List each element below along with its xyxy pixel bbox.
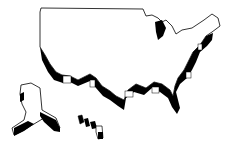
hawaii-big-island-extrusion [98, 132, 103, 139]
contiguous-us [40, 8, 220, 114]
us-map-illustration [0, 0, 235, 150]
alaska-peninsula-extrusion [14, 121, 34, 136]
map-svg [0, 0, 235, 150]
hawaii [78, 115, 103, 139]
hawaii-island-2 [84, 118, 90, 127]
hawaii-island-1 [78, 115, 84, 124]
alaska [12, 83, 60, 136]
